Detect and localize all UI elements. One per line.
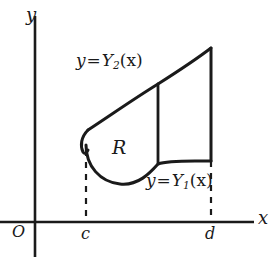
x-axis-label: x — [258, 209, 268, 227]
right-bound-label: d — [205, 226, 215, 242]
region-diagram — [0, 0, 279, 257]
upper-curve-label: y=Y2(x) — [76, 52, 143, 70]
region-label: R — [112, 138, 126, 157]
left-bound-label: c — [81, 226, 90, 242]
y-axis-label: y — [26, 6, 36, 24]
origin-label: O — [12, 224, 25, 240]
lower-curve-label: y=Y1(x) — [146, 172, 213, 190]
figure-background — [0, 0, 279, 257]
